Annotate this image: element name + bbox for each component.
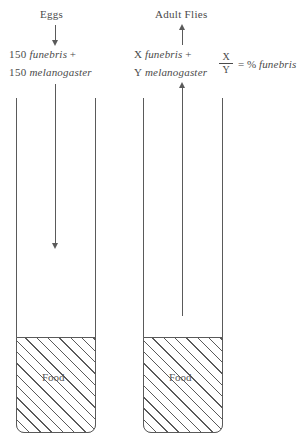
left-count-1: 150 <box>9 48 27 60</box>
right-tube-flow-arrow-head <box>179 82 185 88</box>
formula-tail: = % funebris <box>238 58 297 70</box>
eggs-input-arrow-head <box>52 40 58 46</box>
ratio-formula: X Y = % funebris <box>219 52 297 75</box>
left-count-2: 150 <box>9 66 27 78</box>
right-species-2: melanogaster <box>145 66 207 78</box>
formula-result-species: funebris <box>259 58 297 70</box>
left-panel-heading: Eggs <box>40 8 63 21</box>
left-food-region <box>16 337 96 433</box>
left-composition-row-1: 150 funebris + <box>9 48 76 61</box>
figure-canvas: Eggs 150 funebris + 150 melanogaster Foo… <box>0 0 308 438</box>
right-operator-1: + <box>185 48 191 60</box>
left-composition-row-2: 150 melanogaster <box>9 66 92 79</box>
right-food-region <box>143 337 223 433</box>
right-species-1: funebris <box>145 48 183 60</box>
right-food-label: Food <box>169 371 192 383</box>
right-composition-row-1: X funebris + <box>134 48 192 61</box>
right-count-1: X <box>134 48 142 60</box>
ratio-fraction: X Y <box>219 52 233 75</box>
right-composition-row-2: Y melanogaster <box>134 66 207 79</box>
adult-flies-output-arrow-shaft <box>182 29 183 45</box>
right-tube-flow-arrow-shaft <box>182 88 183 316</box>
left-tube-flow-arrow-head <box>52 243 58 249</box>
left-food-label: Food <box>42 371 65 383</box>
right-count-2: Y <box>134 66 142 78</box>
left-operator-1: + <box>70 48 76 60</box>
ratio-denominator: Y <box>220 64 231 75</box>
left-species-1: funebris <box>29 48 67 60</box>
ratio-numerator: X <box>220 52 231 63</box>
right-panel-heading: Adult Flies <box>155 8 208 21</box>
equals-sign: = <box>238 58 244 70</box>
percent-sign: % <box>247 58 256 70</box>
left-tube-flow-arrow-shaft <box>55 84 56 246</box>
adult-flies-output-arrow-head <box>179 24 185 30</box>
left-species-2: melanogaster <box>29 66 91 78</box>
